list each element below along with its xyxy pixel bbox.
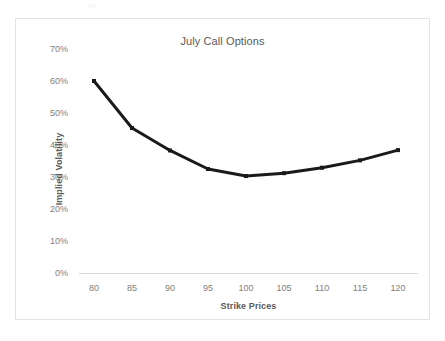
data-point-95 bbox=[206, 167, 210, 171]
data-point-105 bbox=[282, 171, 286, 175]
series-markers bbox=[92, 79, 400, 178]
screenshot-canvas: ▭ July Call Options 70% 60% 50% 40% 30% … bbox=[0, 0, 445, 341]
data-point-115 bbox=[358, 158, 362, 162]
data-point-80 bbox=[92, 79, 96, 83]
data-point-100 bbox=[244, 174, 248, 178]
data-point-85 bbox=[130, 126, 134, 130]
data-point-90 bbox=[168, 148, 172, 152]
chart-container: July Call Options 70% 60% 50% 40% 30% 20… bbox=[15, 18, 430, 320]
data-point-120 bbox=[396, 148, 400, 152]
series-line bbox=[94, 81, 398, 176]
plot-area: 70% 60% 50% 40% 30% 20% 10% 0% Implied V… bbox=[16, 19, 429, 319]
page-artifact-icon: ▭ bbox=[88, 1, 102, 10]
data-point-110 bbox=[320, 166, 324, 170]
implied-volatility-series bbox=[16, 19, 429, 319]
